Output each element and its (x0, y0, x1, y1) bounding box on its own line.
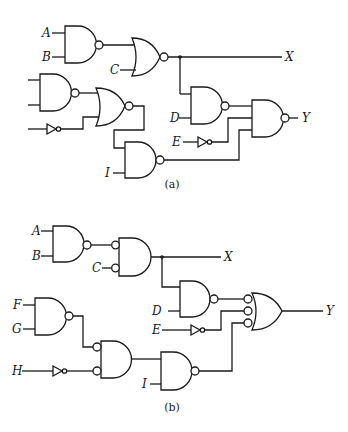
output-label-x-b: X (223, 250, 233, 264)
nand-gate-ab-b (53, 226, 91, 262)
output-label-y-b: Y (326, 304, 335, 318)
wire-nand-fg-to-and (73, 316, 93, 347)
input-label-a-b: A (31, 224, 41, 238)
output-label-y: Y (302, 111, 311, 125)
nand-gate-fg (35, 298, 73, 335)
input-label-i-b: I (141, 377, 147, 391)
input-label-d-b: D (151, 304, 162, 318)
input-label-d: D (169, 111, 180, 125)
inverter-e-b (191, 325, 205, 335)
nand-gate-d-b (180, 281, 218, 317)
input-label-c-b: C (92, 261, 101, 275)
or-gate-bubbled-y (244, 293, 282, 330)
and-gate-bubbled-fgh (93, 341, 132, 378)
input-label-e: E (171, 135, 181, 149)
nand-gate-y (252, 100, 289, 137)
wire-x-to-nand-d-b (162, 257, 180, 287)
nand-gate-left (40, 74, 79, 111)
caption-a: (a) (164, 178, 179, 191)
nand-gate-d (191, 87, 229, 124)
diagram-b: A B C X D E (11, 224, 335, 414)
input-label-a: A (41, 26, 51, 40)
output-label-x: X (284, 50, 294, 64)
nand-gate-ab (65, 26, 103, 63)
inverter-h (53, 366, 67, 376)
nand-gate-i-b (161, 352, 199, 390)
inverter-left (47, 124, 61, 134)
caption-b: (b) (164, 401, 180, 414)
wire-inv-to-nor (61, 117, 100, 129)
input-label-h: H (11, 364, 23, 378)
nand-gate-i (125, 142, 164, 178)
input-label-b-b: B (31, 249, 41, 263)
input-label-i: I (104, 166, 110, 180)
diagram-a: A B C X (28, 26, 311, 191)
nor-gate-left (96, 88, 133, 126)
input-label-f: F (12, 298, 22, 312)
input-label-b: B (41, 50, 51, 64)
nor-gate-c (132, 38, 168, 76)
wire-inv-e-to-or-b (205, 311, 244, 330)
inverter-e (198, 137, 212, 147)
input-label-e-b: E (151, 323, 161, 337)
input-label-g: G (12, 322, 22, 336)
and-gate-bubbled-x (112, 238, 151, 276)
logic-circuit-diagrams: A B C X (0, 0, 348, 432)
input-label-c: C (110, 63, 119, 77)
